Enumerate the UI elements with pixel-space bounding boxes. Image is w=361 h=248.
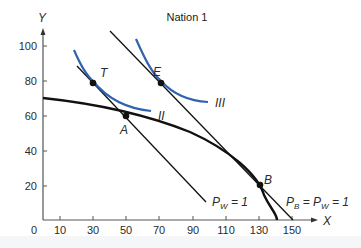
chart-title: Nation 1 <box>167 11 208 23</box>
curve-II-label: II <box>158 109 165 123</box>
y-axis-label: Y <box>38 11 47 25</box>
y-tick-label: 60 <box>25 110 37 122</box>
x-tick-label: 10 <box>54 224 66 236</box>
x-axis-label: X <box>322 214 332 228</box>
x-tick-label: 30 <box>87 224 99 236</box>
price-line-trade-label: PB = PW = 1 <box>286 195 349 211</box>
x-tick-label: 50 <box>120 224 132 236</box>
y-tick-label: 20 <box>25 180 37 192</box>
price-line-trade <box>110 31 293 220</box>
point-T-label: T <box>100 66 109 80</box>
y-axis-arrow-icon <box>41 28 46 35</box>
point-E-label: E <box>153 65 162 79</box>
point-B-label: B <box>264 173 272 187</box>
x-tick-label: 110 <box>217 224 235 236</box>
x-ticks: 0 10 30 50 70 90 110 130 150 <box>31 216 301 236</box>
point-T <box>90 80 97 87</box>
y-tick-label: 80 <box>25 75 37 87</box>
x-tick-label: 70 <box>153 224 165 236</box>
indifference-curve-III <box>136 39 208 102</box>
chart: Nation 1 Y X 100 80 60 40 20 0 10 30 50 <box>0 0 361 248</box>
point-A-label: A <box>119 123 128 137</box>
price-line-autarky-label: PW = 1 <box>212 195 248 211</box>
y-tick-label: 40 <box>25 145 37 157</box>
y-tick-label: 100 <box>19 40 37 52</box>
point-B <box>257 182 264 189</box>
x-tick-label: 90 <box>187 224 199 236</box>
x-axis-arrow-icon <box>311 218 318 223</box>
x-tick-label: 150 <box>283 224 301 236</box>
point-E <box>158 80 165 87</box>
x-tick-label: 130 <box>250 224 268 236</box>
point-A <box>123 113 130 120</box>
indifference-curve-II <box>74 50 151 111</box>
curve-III-label: III <box>215 96 226 110</box>
origin-label: 0 <box>31 224 37 236</box>
